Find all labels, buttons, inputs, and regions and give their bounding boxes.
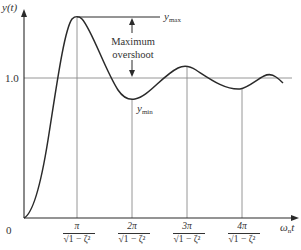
- x-tick-4pi: 4π √1 − ζ²: [222, 222, 262, 245]
- annotation-line1: Maximum: [108, 35, 158, 48]
- ymin-label: ymin: [137, 103, 153, 116]
- ymax-label: ymax: [164, 11, 181, 24]
- y-axis-label-text: y(t): [2, 1, 17, 13]
- x-tick-3pi: 3π √1 − ζ²: [167, 222, 207, 245]
- annotation-line2: overshoot: [108, 48, 158, 61]
- y-ref-label: 1.0: [5, 73, 19, 84]
- tick-numerator: π: [57, 222, 97, 232]
- origin-label: 0: [6, 225, 12, 236]
- x-axis-label-suffix: t: [291, 221, 294, 233]
- ymin-sub: min: [142, 108, 153, 116]
- tick-denominator: √1 − ζ²: [57, 235, 97, 245]
- tick-numerator: 4π: [222, 222, 262, 232]
- y-axis-arrow-icon: [21, 9, 27, 17]
- x-tick-pi: π √1 − ζ²: [57, 222, 97, 245]
- x-axis-label: ωnt: [280, 222, 294, 235]
- arrow-down-icon: [129, 70, 135, 77]
- max-overshoot-annotation: Maximum overshoot: [108, 35, 158, 61]
- vertical-gridlines: [77, 17, 242, 218]
- y-axis-label: y(t): [2, 2, 17, 13]
- ymax-sub: max: [169, 16, 181, 24]
- x-axis-label-base: ω: [280, 221, 288, 233]
- x-tick-2pi: 2π √1 − ζ²: [112, 222, 152, 245]
- tick-numerator: 2π: [112, 222, 152, 232]
- tick-denominator: √1 − ζ²: [222, 235, 262, 245]
- tick-numerator: 3π: [167, 222, 207, 232]
- tick-denominator: √1 − ζ²: [112, 235, 152, 245]
- arrow-up-icon: [129, 18, 135, 25]
- tick-denominator: √1 − ζ²: [167, 235, 207, 245]
